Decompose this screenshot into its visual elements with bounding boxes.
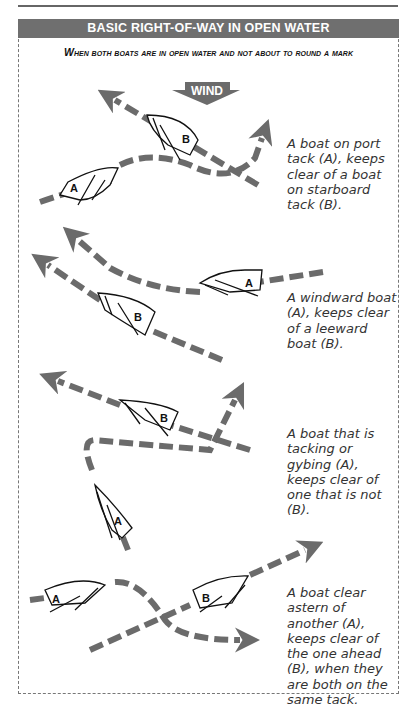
svg-text:A: A: [70, 182, 78, 194]
caption-port-starboard: A boat on port tack (A), keeps clear of …: [287, 136, 399, 212]
svg-text:A: A: [52, 593, 60, 605]
svg-text:A: A: [114, 515, 122, 527]
track-a-2: [78, 240, 323, 292]
caption-tacking-gybing: A boat that is tacking or gybing (A), ke…: [287, 426, 399, 518]
caption-clear-astern: A boat clear astern of another (A), keep…: [287, 585, 399, 707]
svg-text:B: B: [134, 311, 142, 323]
boat-b-1: B: [147, 115, 198, 160]
svg-text:B: B: [202, 592, 210, 604]
caption-windward-leeward: A windward boat (A), keeps clear of a le…: [287, 290, 399, 351]
boat-b-3: B: [120, 400, 178, 436]
svg-text:WIND: WIND: [191, 84, 223, 98]
boat-a-3: A: [95, 485, 132, 540]
svg-text:A: A: [245, 277, 253, 289]
wind-arrow-icon: WIND: [172, 82, 240, 105]
boat-b-2: B: [98, 293, 155, 335]
boat-b-4: B: [193, 576, 248, 612]
boat-a-4: A: [45, 581, 105, 612]
svg-text:B: B: [182, 133, 190, 145]
boat-a-1: A: [60, 168, 118, 205]
svg-text:B: B: [160, 412, 168, 424]
boat-a-2: A: [200, 270, 262, 296]
